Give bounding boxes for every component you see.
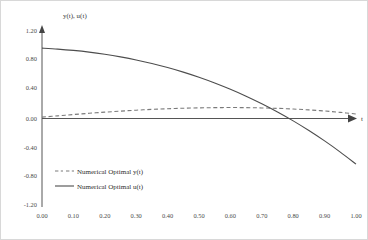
y-tick-label: 1.20 — [26, 27, 37, 34]
x-axis-title: t — [361, 115, 363, 123]
x-tick-label: 1.00 — [350, 212, 361, 219]
x-axis-arrow-icon — [348, 115, 357, 123]
x-tick-label: 0.40 — [162, 212, 173, 219]
chart-plot-area: y(t), u(t) t 1.20 0.80 0.40 0.00 -0.40 -… — [1, 1, 368, 240]
x-tick-label: 0.60 — [225, 212, 236, 219]
legend-label-y: Numerical Optimal y(t) — [77, 168, 144, 176]
x-tick-label: 0.50 — [193, 212, 204, 219]
x-tick-label: 0.00 — [36, 212, 47, 219]
y-tick-label: -0.40 — [24, 144, 37, 151]
x-tick-label: 0.70 — [256, 212, 267, 219]
x-tick-label: 0.30 — [131, 212, 142, 219]
x-tick-label: 0.80 — [288, 212, 299, 219]
x-tick-label: 0.20 — [99, 212, 110, 219]
y-tick-label: 0.40 — [26, 84, 37, 91]
y-tick-label: 0.00 — [26, 115, 37, 122]
series-line-y — [42, 108, 356, 118]
y-axis-arrow-icon — [39, 25, 45, 33]
chart-figure: y(t), u(t) t 1.20 0.80 0.40 0.00 -0.40 -… — [0, 0, 368, 240]
y-tick-label: 0.80 — [26, 55, 37, 62]
series-line-u — [42, 48, 356, 164]
x-tick-label: 0.10 — [68, 212, 79, 219]
y-tick-label: -1.20 — [24, 201, 37, 208]
legend-label-u: Numerical Optimal u(t) — [77, 183, 144, 191]
y-tick-label: -0.80 — [24, 172, 37, 179]
chart-legend: Numerical Optimal y(t) Numerical Optimal… — [55, 168, 144, 191]
x-tick-label: 0.90 — [319, 212, 330, 219]
y-axis-title: y(t), u(t) — [63, 12, 87, 20]
